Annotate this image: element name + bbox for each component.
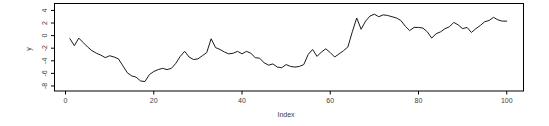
- y-tick-label: 4: [41, 8, 48, 12]
- y-axis: 420-2-4-6-8: [41, 8, 54, 89]
- x-tick-label: 80: [415, 97, 423, 104]
- x-axis: 020406080100: [64, 91, 513, 104]
- y-axis-label: y: [25, 47, 33, 51]
- y-tick-label: 0: [41, 34, 48, 38]
- data-series: [70, 14, 507, 81]
- y-tick-label: -8: [41, 83, 48, 89]
- y-tick-label: 2: [41, 21, 48, 25]
- plot-figure: 020406080100 420-2-4-6-8 Index y: [0, 0, 549, 126]
- data-line: [70, 14, 507, 81]
- plot-box: [55, 4, 524, 92]
- x-axis-label: Index: [277, 111, 295, 118]
- line-chart: 020406080100 420-2-4-6-8 Index y: [0, 0, 549, 126]
- x-tick-label: 100: [501, 97, 513, 104]
- x-tick-label: 40: [238, 97, 246, 104]
- y-tick-label: -6: [41, 70, 48, 76]
- y-tick-label: -4: [41, 58, 48, 64]
- x-tick-label: 20: [150, 97, 158, 104]
- x-tick-label: 0: [64, 97, 68, 104]
- y-tick-label: -2: [41, 45, 48, 51]
- x-tick-label: 60: [326, 97, 334, 104]
